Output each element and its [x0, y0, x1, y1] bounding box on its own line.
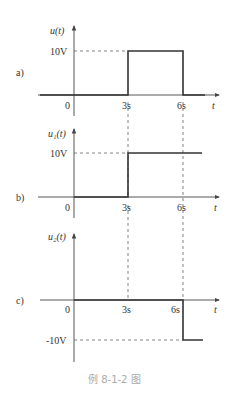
tick-3s: 3s	[122, 100, 131, 111]
x-label: t	[214, 304, 217, 315]
figure-caption: 例 8-1-2 图	[88, 373, 141, 385]
x-label: t	[214, 202, 217, 213]
panel-tag: b)	[16, 192, 24, 204]
tick-3s: 3s	[122, 202, 131, 213]
tick-0: 0	[65, 304, 70, 315]
level-label: 10V	[50, 148, 68, 159]
y-label: u₁(t)	[48, 128, 67, 140]
panel-c: u₂(t) -10V c) 0 3s 6s t	[16, 231, 219, 362]
signal-u2	[74, 300, 203, 340]
signal-u	[40, 51, 205, 95]
y-label: u₂(t)	[48, 231, 67, 243]
waveform-diagram: u(t) 10V a) 0 3s 6s t u₁(t) 10V b) 0 3s …	[0, 0, 232, 399]
panel-tag: c)	[16, 295, 24, 307]
panel-b: u₁(t) 10V b) 0 3s 6s t	[16, 128, 219, 218]
level-label: 10V	[50, 46, 68, 57]
panel-tag: a)	[16, 67, 24, 79]
tick-0: 0	[65, 100, 70, 111]
tick-3s: 3s	[122, 304, 131, 315]
y-label: u(t)	[50, 25, 65, 37]
tick-6s: 6s	[177, 100, 186, 111]
tick-6s: 6s	[177, 202, 186, 213]
panel-a: u(t) 10V a) 0 3s 6s t	[16, 25, 219, 116]
x-label: t	[212, 100, 215, 111]
tick-0: 0	[65, 202, 70, 213]
tick-6s: 6s	[171, 304, 180, 315]
level-label: -10V	[46, 335, 67, 346]
